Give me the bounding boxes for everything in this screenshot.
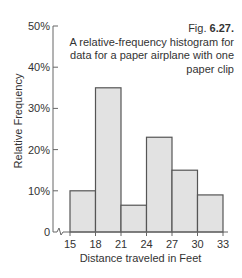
- x-axis-label: Distance traveled in Feet: [80, 252, 202, 264]
- x-tick-label: 18: [89, 238, 101, 250]
- y-axis-label: Relative Frequency: [12, 73, 24, 168]
- x-tick-label: 24: [140, 238, 152, 250]
- x-tick-label: 30: [191, 238, 203, 250]
- y-tick-label: 0: [44, 226, 50, 238]
- histogram-bar: [96, 88, 122, 232]
- y-tick-label: 10%: [28, 185, 50, 197]
- histogram-bar: [70, 191, 96, 232]
- x-tick-label: 15: [64, 238, 76, 250]
- histogram-chart: 010%20%30%40%50%15182124273033Distance t…: [0, 0, 242, 278]
- x-tick-label: 33: [217, 238, 229, 250]
- histogram-bar: [147, 137, 173, 232]
- x-tick-label: 21: [115, 238, 127, 250]
- y-tick-label: 40%: [28, 61, 50, 73]
- histogram-bars: [70, 88, 223, 232]
- x-tick-label: 27: [166, 238, 178, 250]
- histogram-bar: [172, 170, 198, 232]
- histogram-bar: [198, 195, 224, 232]
- y-tick-label: 30%: [28, 102, 50, 114]
- y-tick-label: 50%: [28, 20, 50, 32]
- histogram-bar: [121, 205, 147, 232]
- y-tick-label: 20%: [28, 144, 50, 156]
